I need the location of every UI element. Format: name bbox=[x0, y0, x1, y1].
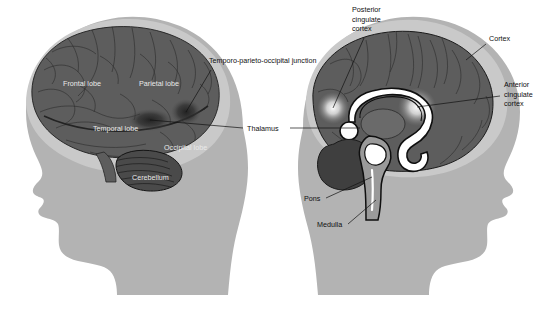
label-thalamus: Thalamus bbox=[247, 124, 279, 133]
pituitary-bulb bbox=[340, 122, 358, 140]
diagram-canvas: Frontal lobe Parietal lobe Temporal lobe… bbox=[0, 0, 546, 314]
label-medulla: Medulla bbox=[317, 220, 342, 229]
midsagittal-view-panel bbox=[298, 17, 520, 295]
cerebral-aqueduct bbox=[372, 170, 373, 210]
label-pcc-line1: Posterior bbox=[352, 5, 381, 14]
fourth-ventricle bbox=[365, 144, 386, 165]
brain-anatomy-figure: Frontal lobe Parietal lobe Temporal lobe… bbox=[0, 0, 546, 314]
label-parietal-lobe: Parietal lobe bbox=[139, 79, 179, 88]
label-tpj: Temporo-parieto-occipital junction bbox=[209, 56, 316, 65]
label-acc-line2: cingulate bbox=[504, 90, 533, 99]
label-anterior-cingulate-cortex: Anterior cingulate cortex bbox=[504, 80, 535, 108]
label-occipital-lobe: Occipital lobe bbox=[164, 143, 207, 152]
label-frontal-lobe: Frontal lobe bbox=[63, 79, 101, 88]
label-pcc-line3: cortex bbox=[352, 24, 372, 33]
label-acc-line3: cortex bbox=[504, 99, 524, 108]
label-acc-line1: Anterior bbox=[504, 80, 530, 89]
thalamus-midsagittal bbox=[361, 109, 405, 139]
label-cerebellum: Cerebellum bbox=[132, 173, 169, 182]
label-pons: Pons bbox=[304, 194, 321, 203]
brain-lateral bbox=[32, 27, 219, 158]
label-pcc-line2: cingulate bbox=[352, 15, 381, 24]
label-cortex: Cortex bbox=[489, 34, 511, 43]
label-temporal-lobe: Temporal lobe bbox=[93, 124, 138, 133]
